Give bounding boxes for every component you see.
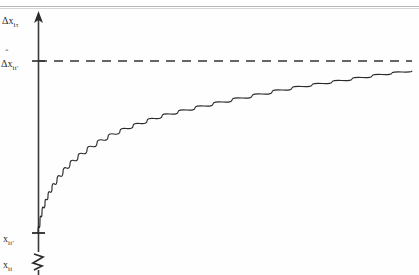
label-x-it: xit (3, 255, 13, 273)
label-delta-x-i-tau-base: Δx (2, 15, 13, 26)
label-x-it-prime-sub: it' (8, 239, 14, 247)
plot-canvas (0, 0, 419, 275)
label-delta-x-i-tau-sub: iτ (13, 21, 18, 29)
label-delta-x-hat-wrapper: ˆΔx (1, 54, 12, 70)
label-x-it-prime: xit' (3, 229, 14, 247)
label-delta-x-hat-it-prime: ˆΔxit' (1, 54, 19, 72)
label-delta-x-hat-it-prime-base: Δx (1, 58, 12, 69)
figure-root: Δxiτ ˆΔxit' xit' xit (0, 0, 419, 275)
label-x-it-sub: it (8, 265, 13, 273)
axis-break-zigzag-icon (33, 254, 43, 270)
adjustment-path-curve (38, 71, 412, 233)
hat-accent-icon: ˆ (5, 50, 8, 58)
label-delta-x-i-tau: Δxiτ (2, 11, 19, 29)
label-delta-x-hat-it-prime-sub: it' (12, 64, 18, 72)
